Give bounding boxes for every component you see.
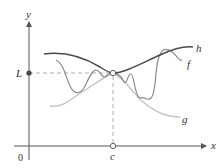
c-open-point: [110, 70, 115, 75]
curve-g: [50, 73, 180, 117]
y-axis-label: y: [25, 8, 31, 20]
c-axis-point: [110, 143, 115, 148]
x-axis-label: x: [210, 139, 216, 151]
h-label: h: [196, 42, 202, 54]
limit-label: L: [15, 67, 22, 79]
f-label: f: [187, 58, 192, 70]
limit-point: [26, 70, 31, 75]
g-label: g: [182, 113, 188, 125]
squeeze-theorem-diagram: y x 0 L c h f g: [0, 0, 221, 168]
c-label: c: [110, 150, 115, 162]
origin-label: 0: [18, 152, 23, 163]
curve-h: [44, 47, 193, 73]
